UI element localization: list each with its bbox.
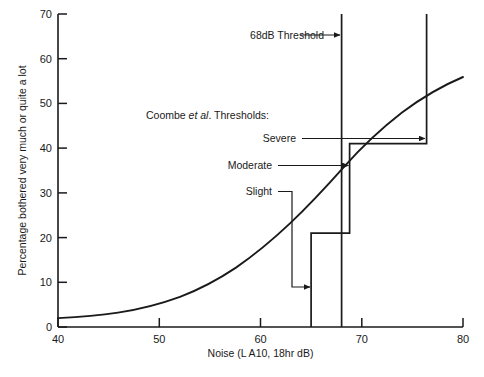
annotation-moderate-label: Moderate [228,159,273,171]
x-axis-ticks [58,318,463,327]
y-tick-label-0: 0 [46,321,52,333]
y-tick-label-20: 20 [40,232,52,244]
x-axis-title: Noise (L A10, 18hr dB) [208,347,314,359]
x-tick-label-80: 80 [457,333,469,345]
y-tick-label-30: 30 [40,187,52,199]
y-tick-label-10: 10 [40,276,52,288]
chart-figure: 0 10 20 30 40 50 60 70 40 50 60 70 80 No… [0,0,484,377]
x-axis-tick-labels: 40 50 60 70 80 [52,333,469,345]
chart-plot-area: 0 10 20 30 40 50 60 70 40 50 60 70 80 No… [0,0,484,377]
annotation-coombe-suffix: . Thresholds: [208,109,269,121]
y-axis-tick-labels: 0 10 20 30 40 50 60 70 [40,8,52,333]
x-tick-label-70: 70 [356,333,368,345]
annotation-coombe-heading: Coombe et al. Thresholds: [146,109,269,121]
annotation-severe: Severe [263,132,425,144]
annotation-severe-label: Severe [263,132,296,144]
coombe-step-function [311,14,427,327]
annotation-68db-threshold: 68dB Threshold [250,29,340,41]
annotation-slight-leader [278,192,310,288]
y-axis-title: Percentage bothered very much or quite a… [16,65,28,275]
annotation-slight-label: Slight [246,185,272,197]
annotation-slight: Slight [246,185,310,287]
y-axis-ticks [58,14,67,327]
y-tick-label-40: 40 [40,142,52,154]
x-tick-label-40: 40 [52,333,64,345]
x-tick-label-60: 60 [254,333,266,345]
annotation-coombe-prefix: Coombe [146,109,189,121]
annotation-moderate: Moderate [228,159,349,171]
annotation-coombe-italic: et al [189,109,210,121]
y-tick-label-50: 50 [40,97,52,109]
x-tick-label-50: 50 [153,333,165,345]
y-tick-label-60: 60 [40,53,52,65]
y-tick-label-70: 70 [40,8,52,20]
